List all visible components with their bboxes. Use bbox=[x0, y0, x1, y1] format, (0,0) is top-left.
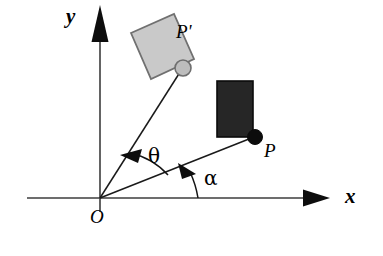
point-P-prime-label: P' bbox=[176, 22, 192, 41]
point-P-label: P bbox=[264, 141, 276, 160]
alpha-arc-arrowhead bbox=[178, 163, 196, 179]
theta-angle-label: θ bbox=[148, 146, 160, 166]
y-axis-label: y bbox=[66, 6, 75, 27]
dark-rectangle-body bbox=[217, 81, 253, 137]
segment-O-to-Pprime bbox=[100, 69, 182, 198]
origin-label: O bbox=[90, 207, 104, 226]
alpha-arc-path bbox=[190, 172, 198, 198]
x-axis-label: x bbox=[345, 186, 356, 207]
point-Pprime-marker bbox=[175, 60, 191, 76]
alpha-angle-label: α bbox=[204, 168, 218, 188]
segment-O-to-P bbox=[100, 137, 254, 198]
x-axis-arrowhead bbox=[303, 190, 330, 207]
dark-rectangle-shape bbox=[217, 81, 253, 137]
figure-canvas: y x O P P' θ α bbox=[0, 0, 383, 256]
point-P-marker bbox=[248, 130, 263, 145]
theta-angle-arc bbox=[120, 149, 168, 175]
alpha-angle-arc bbox=[178, 163, 198, 198]
y-axis-arrowhead bbox=[92, 5, 109, 42]
